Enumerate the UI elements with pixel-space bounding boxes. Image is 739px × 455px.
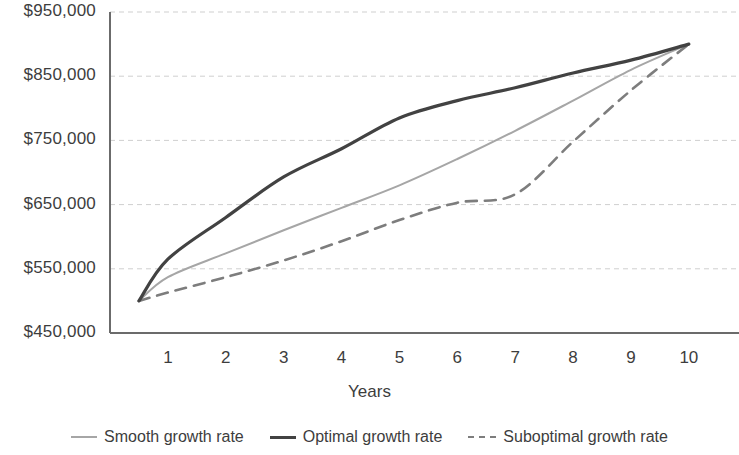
x-axis-tick-label: 3	[264, 348, 304, 368]
legend-label: Smooth growth rate	[104, 428, 244, 446]
y-axis-tick-label: $450,000	[23, 322, 96, 342]
x-axis-tick-label: 5	[379, 348, 419, 368]
legend-label: Suboptimal growth rate	[503, 428, 668, 446]
line-chart: $950,000$850,000$750,000$650,000$550,000…	[0, 0, 739, 455]
x-axis-tick-label: 4	[322, 348, 362, 368]
legend-swatch-optimal-icon	[270, 436, 296, 439]
series-line	[139, 44, 689, 301]
series-lines	[139, 44, 689, 301]
x-axis-tick-label: 7	[495, 348, 535, 368]
legend-item[interactable]: Smooth growth rate	[71, 428, 244, 446]
legend-swatch-suboptimal-icon	[468, 436, 496, 438]
legend-item[interactable]: Suboptimal growth rate	[468, 428, 668, 446]
axis-lines	[110, 12, 739, 333]
legend-item[interactable]: Optimal growth rate	[270, 428, 443, 446]
y-axis-tick-label: $650,000	[23, 194, 96, 214]
legend-swatch-smooth-icon	[71, 436, 97, 438]
x-axis-tick-label: 8	[553, 348, 593, 368]
x-axis-tick-label: 6	[437, 348, 477, 368]
y-axis-tick-labels: $950,000$850,000$750,000$650,000$550,000…	[0, 0, 96, 360]
chart-legend: Smooth growth rateOptimal growth rateSub…	[0, 428, 739, 446]
x-axis-tick-labels: 12345678910	[0, 0, 739, 40]
x-axis-tick-label: 2	[206, 348, 246, 368]
y-axis-tick-label: $550,000	[23, 258, 96, 278]
y-axis-tick-label: $750,000	[23, 129, 96, 149]
x-axis-tick-label: 1	[148, 348, 188, 368]
y-axis-tick-label: $850,000	[23, 65, 96, 85]
x-axis-tick-label: 10	[669, 348, 709, 368]
x-axis-title: Years	[0, 382, 739, 402]
legend-label: Optimal growth rate	[303, 428, 443, 446]
x-axis-tick-label: 9	[611, 348, 651, 368]
